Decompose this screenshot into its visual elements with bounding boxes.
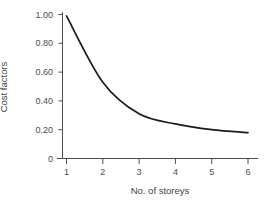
y-tick-label-0.20: 0.20 xyxy=(13,125,53,134)
x-axis-ticks xyxy=(67,159,249,165)
data-series-line xyxy=(67,16,249,133)
y-tick-label-0.60: 0.60 xyxy=(13,68,53,77)
x-tick-label-2: 2 xyxy=(100,168,105,177)
x-tick-label-4: 4 xyxy=(173,168,178,177)
y-tick-label-1.00: 1.00 xyxy=(13,10,53,19)
y-tick-label-0.80: 0.80 xyxy=(13,39,53,48)
x-axis-title: No. of storeys xyxy=(131,186,190,196)
x-tick-label-1: 1 xyxy=(64,168,69,177)
x-tick-label-3: 3 xyxy=(137,168,142,177)
y-axis-title: Cost factors xyxy=(0,62,9,113)
x-tick-label-5: 5 xyxy=(209,168,214,177)
y-tick-label-0.40: 0.40 xyxy=(13,96,53,105)
y-tick-label-0: 0 xyxy=(13,154,53,163)
chart-figure: 1.00 0.80 0.60 0.40 0.20 0 1 2 3 4 5 6 N… xyxy=(0,0,267,205)
x-tick-label-6: 6 xyxy=(245,168,250,177)
y-axis-ticks xyxy=(59,15,63,159)
